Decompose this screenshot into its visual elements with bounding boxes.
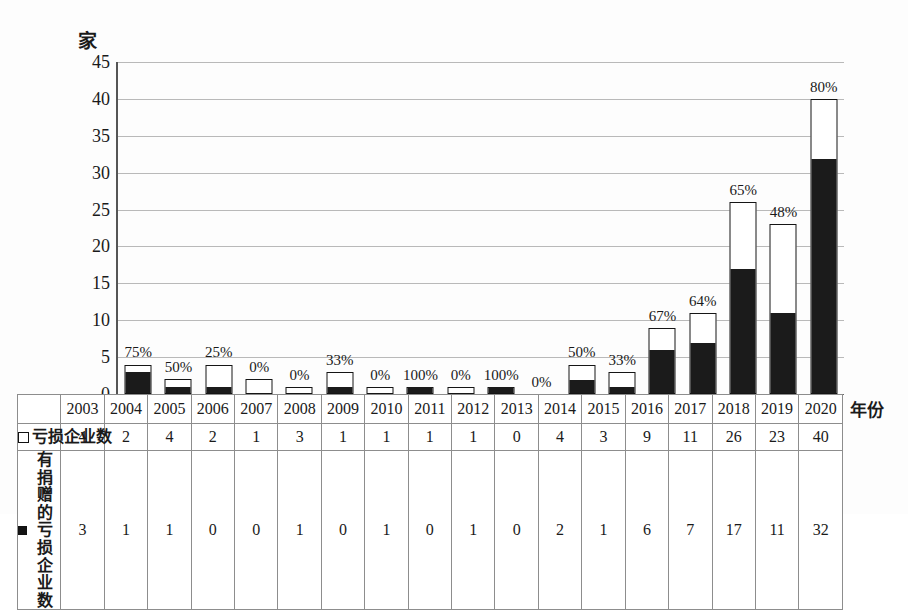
bar-percent-label-2004: 50% [165,359,193,376]
table-cell: 0 [235,451,278,610]
year-header-2015: 2015 [582,395,625,424]
bar-percent-label-2017: 64% [689,293,717,310]
year-header-2008: 2008 [278,395,321,424]
bar-2015 [609,372,636,394]
table-cell: 0 [408,451,451,610]
bar-percent-label-2016: 67% [649,308,677,325]
bar-slot-2005: 25% [199,62,239,394]
bar-segment-donating-2015 [610,387,635,393]
y-tick-label-25: 25 [92,199,110,220]
bar-segment-donating-2008 [327,387,352,393]
bar-2003 [125,365,152,395]
year-header-2010: 2010 [365,395,408,424]
bar-2016 [649,328,676,394]
bar-2007 [286,387,313,394]
table-cell: 4 [538,424,581,451]
bar-2014 [568,365,595,395]
table-cell: 1 [365,424,408,451]
bar-percent-label-2008: 33% [326,352,354,369]
year-header-2013: 2013 [495,395,538,424]
legend-row-header-donating-loss-enterprises: 有捐赠的亏损企业数 [18,451,61,610]
year-header-2004: 2004 [104,395,147,424]
year-header-2006: 2006 [191,395,234,424]
year-header-2018: 2018 [712,395,755,424]
table-cell: 11 [755,451,798,610]
table-row: 有捐赠的亏损企业数311001010102167171132 [18,451,843,610]
table-cell: 1 [148,451,191,610]
bar-segment-donating-2012 [489,387,514,393]
bar-2012 [488,387,515,394]
bar-slot-2018: 65% [723,62,763,394]
table-cell: 1 [321,424,364,451]
bar-2006 [246,379,273,394]
legend-row-header-loss-enterprises: 亏损企业数 [18,424,61,451]
table-cell: 4 [148,424,191,451]
table-cell: 11 [669,424,712,451]
year-header-2014: 2014 [538,395,581,424]
y-axis-unit-label: 家 [78,26,97,53]
table-cell: 3 [61,451,104,610]
y-tick-label-40: 40 [92,88,110,109]
x-axis-caption: 年份 [850,396,884,421]
y-tick-label-5: 5 [101,347,110,368]
bar-percent-label-2009: 0% [370,367,390,384]
table-cell: 9 [625,424,668,451]
bar-segment-donating-2003 [126,372,151,393]
bar-slot-2013: 0% [521,62,561,394]
year-header-2020: 2020 [799,395,843,424]
bar-2008 [326,372,353,394]
bar-percent-label-2003: 75% [124,344,152,361]
bar-2010 [407,387,434,394]
bar-2018 [730,202,757,394]
year-header-2011: 2011 [408,395,451,424]
table-corner-blank [18,395,61,424]
bar-segment-donating-2017 [690,343,715,393]
table-cell: 26 [712,424,755,451]
bar-percent-label-2015: 33% [608,352,636,369]
data-table-wrapper: 2003200420052006200720082009201020112012… [17,394,843,610]
table-cell: 23 [755,424,798,451]
year-header-2012: 2012 [452,395,495,424]
bar-slot-2014: 50% [562,62,602,394]
table-cell: 1 [235,424,278,451]
bar-percent-label-2010: 100% [403,367,438,384]
year-header-2019: 2019 [755,395,798,424]
y-tick-label-30: 30 [92,162,110,183]
bar-percent-label-2007: 0% [289,367,309,384]
table-cell: 0 [191,451,234,610]
y-tick-label-10: 10 [92,310,110,331]
y-tick-label-35: 35 [92,125,110,146]
bar-2020 [810,99,837,394]
bar-percent-label-2013: 0% [531,374,551,391]
table-cell: 0 [495,451,538,610]
table-cell: 2 [191,424,234,451]
table-cell: 17 [712,451,755,610]
bar-percent-label-2020: 80% [810,79,838,96]
bar-percent-label-2011: 0% [451,367,471,384]
bar-slot-2009: 0% [360,62,400,394]
bar-2004 [165,379,192,394]
bar-2011 [447,387,474,394]
bar-slot-2004: 50% [158,62,198,394]
year-header-2017: 2017 [669,395,712,424]
table-cell: 3 [582,424,625,451]
bar-percent-label-2006: 0% [249,359,269,376]
legend-label: 亏损企业数 [32,428,112,446]
bar-slot-2012: 100% [481,62,521,394]
table-cell: 1 [365,451,408,610]
table-cell: 40 [799,424,843,451]
plot-area: 051015202530354045 75%50%25%0%0%33%0%100… [116,62,842,394]
bar-slot-2008: 33% [320,62,360,394]
bar-percent-label-2012: 100% [484,367,519,384]
year-header-2005: 2005 [148,395,191,424]
table-cell: 1 [104,451,147,610]
table-cell: 3 [278,424,321,451]
legend-label: 有捐赠的亏损企业数 [30,451,60,609]
bar-slot-2016: 67% [642,62,682,394]
table-cell: 1 [278,451,321,610]
table-cell: 1 [452,424,495,451]
bar-slot-2017: 64% [683,62,723,394]
table-cell: 1 [582,451,625,610]
bar-segment-donating-2014 [569,380,594,393]
bar-slot-2019: 48% [763,62,803,394]
